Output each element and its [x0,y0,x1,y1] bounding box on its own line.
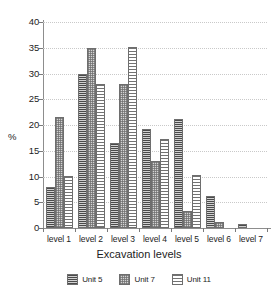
y-axis-tick-label: 10 [29,172,39,182]
bar [64,176,73,228]
legend-label: Unit 7 [134,275,154,284]
x-axis-tick [235,228,236,232]
x-axis-tick [139,228,140,232]
bar [55,117,64,228]
x-axis-label: level 7 [231,234,271,244]
x-axis-tick [203,228,204,232]
y-axis-tick-label: 20 [29,120,39,130]
bar-group [75,22,107,228]
bar [110,143,119,228]
y-axis-tick-label: 30 [29,69,39,79]
bar [192,175,201,228]
chart-legend: Unit 5Unit 7Unit 11 [0,274,278,285]
bar [78,74,87,229]
x-axis-tick [171,228,172,232]
bar [174,119,183,228]
y-axis-tick-label: 0 [34,223,39,233]
bar [96,84,105,228]
plot-area [43,22,267,228]
bar-group [107,22,139,228]
bar [160,139,169,228]
x-axis-tick [75,228,76,232]
bar [119,84,128,228]
bar [142,129,151,228]
bar-group [43,22,75,228]
bar-group [235,22,267,228]
legend-item[interactable]: Unit 7 [119,274,154,285]
y-axis-tick-label: 35 [29,43,39,53]
y-axis-tick-label: 15 [29,146,39,156]
bar-group [171,22,203,228]
bar [238,224,247,228]
bar-chart: % 0510152025303540 level 1level 2level 3… [0,0,278,300]
y-axis-unit-label: % [8,131,16,142]
bar-group [203,22,235,228]
y-axis-tick-label: 25 [29,94,39,104]
bar [151,161,160,228]
legend-label: Unit 11 [187,275,211,284]
legend-swatch-icon [67,274,78,285]
bar [215,222,224,228]
bar [46,187,55,228]
legend-label: Unit 5 [82,275,102,284]
legend-item[interactable]: Unit 5 [67,274,102,285]
y-axis-tick-label: 40 [29,17,39,27]
y-axis-tick-label: 5 [34,197,39,207]
legend-swatch-icon [172,274,183,285]
bar [183,211,192,228]
x-axis-line [43,228,271,229]
legend-item[interactable]: Unit 11 [172,274,211,285]
bar [206,196,215,228]
x-axis-title: Excavation levels [0,248,278,260]
x-axis-tick [267,228,268,232]
bar-group [139,22,171,228]
x-axis-tick [107,228,108,232]
bar [128,47,137,228]
legend-swatch-icon [119,274,130,285]
bar [87,48,96,228]
x-axis-tick [43,228,44,232]
